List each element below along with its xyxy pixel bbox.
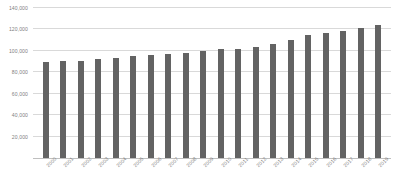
plot-area <box>33 8 391 159</box>
y-tick-label: 120,000 <box>9 26 28 32</box>
bar-chart: 20,00040,00060,00080,000100,000120,00014… <box>0 0 396 183</box>
bar-slot <box>160 8 178 158</box>
x-slot: 2018 <box>352 161 370 183</box>
bar-2013[interactable] <box>270 44 276 158</box>
bar-slot <box>177 8 195 158</box>
bar-slot <box>247 8 265 158</box>
bar-2000[interactable] <box>43 62 49 158</box>
bar-2010[interactable] <box>218 49 224 158</box>
bar-slot <box>107 8 125 158</box>
bar-slot <box>317 8 335 158</box>
x-slot: 2002 <box>72 161 90 183</box>
x-slot: 2000 <box>37 161 55 183</box>
bar-slot <box>352 8 370 158</box>
bar-slot <box>282 8 300 158</box>
bar-2001[interactable] <box>60 61 66 158</box>
bar-2004[interactable] <box>113 58 119 158</box>
x-slot: 2019 <box>370 161 388 183</box>
x-slot: 2014 <box>282 161 300 183</box>
x-slot: 2001 <box>55 161 73 183</box>
x-axis-labels: 2000200120022003200420052006200720082009… <box>33 161 391 183</box>
bar-2017[interactable] <box>340 31 346 159</box>
x-slot: 2015 <box>300 161 318 183</box>
bar-slot <box>90 8 108 158</box>
bar-slot <box>265 8 283 158</box>
x-slot: 2005 <box>125 161 143 183</box>
bar-slot <box>142 8 160 158</box>
bar-2008[interactable] <box>183 53 189 158</box>
y-axis-labels: 20,00040,00060,00080,000100,000120,00014… <box>0 8 31 159</box>
bar-2006[interactable] <box>148 55 154 158</box>
bar-2014[interactable] <box>288 40 294 158</box>
bar-2002[interactable] <box>78 61 84 158</box>
y-tick-label: 100,000 <box>9 48 28 54</box>
bar-slot <box>335 8 353 158</box>
bar-2012[interactable] <box>253 47 259 158</box>
y-tick-label: 20,000 <box>12 134 28 140</box>
bar-slot <box>72 8 90 158</box>
bar-2005[interactable] <box>130 56 136 158</box>
bar-slot <box>125 8 143 158</box>
bar-series <box>33 8 391 158</box>
bar-2011[interactable] <box>235 49 241 158</box>
y-tick-label: 80,000 <box>12 69 28 75</box>
bar-2003[interactable] <box>95 59 101 158</box>
bar-slot <box>212 8 230 158</box>
bar-2016[interactable] <box>323 33 329 158</box>
bar-2007[interactable] <box>165 54 171 158</box>
x-slot: 2006 <box>142 161 160 183</box>
bar-2015[interactable] <box>305 35 311 158</box>
bar-slot <box>230 8 248 158</box>
bar-2009[interactable] <box>200 51 206 158</box>
x-slot: 2012 <box>247 161 265 183</box>
bar-slot <box>195 8 213 158</box>
x-slot: 2013 <box>265 161 283 183</box>
bar-2019[interactable] <box>375 25 381 158</box>
x-slot: 2011 <box>230 161 248 183</box>
x-slot: 2017 <box>335 161 353 183</box>
x-slot: 2008 <box>177 161 195 183</box>
y-tick-label: 60,000 <box>12 91 28 97</box>
x-slot: 2003 <box>90 161 108 183</box>
x-slot: 2010 <box>212 161 230 183</box>
bar-slot <box>370 8 388 158</box>
x-slot: 2009 <box>195 161 213 183</box>
x-slot: 2016 <box>317 161 335 183</box>
y-tick-label: 140,000 <box>9 5 28 11</box>
x-slot: 2004 <box>107 161 125 183</box>
y-tick-label: 40,000 <box>12 112 28 118</box>
bar-slot <box>55 8 73 158</box>
x-slot: 2007 <box>160 161 178 183</box>
bar-slot <box>37 8 55 158</box>
bar-2018[interactable] <box>358 28 364 158</box>
bar-slot <box>300 8 318 158</box>
